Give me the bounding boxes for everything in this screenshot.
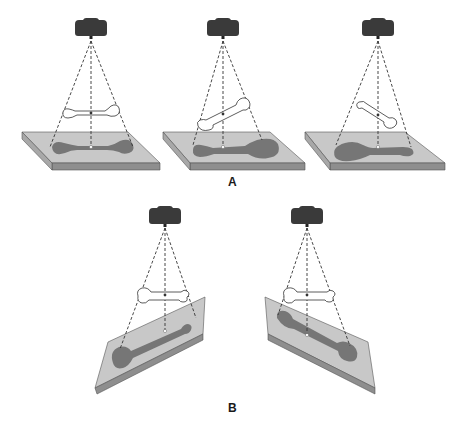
x-ray-beam (50, 41, 133, 147)
panel-a2 (163, 18, 305, 170)
diagram-canvas (0, 0, 465, 423)
x-ray-source-icon (362, 18, 394, 39)
x-ray-source-icon (207, 18, 239, 39)
bone (138, 288, 190, 303)
x-ray-beam (193, 41, 262, 147)
panel-b1 (95, 206, 205, 394)
x-ray-beam (336, 41, 411, 147)
bone (284, 288, 336, 303)
x-ray-source-icon (75, 18, 107, 39)
panel-label-b: B (228, 401, 237, 415)
x-ray-source-icon (291, 206, 323, 227)
film-plate-edge (190, 163, 305, 170)
panel-b2 (265, 206, 375, 394)
panel-a3 (305, 18, 445, 170)
panel-a1 (22, 18, 160, 170)
x-ray-source-icon (149, 206, 181, 227)
film-plate-edge (52, 163, 160, 170)
panel-label-a: A (228, 175, 237, 189)
film-plate-edge (330, 163, 445, 170)
